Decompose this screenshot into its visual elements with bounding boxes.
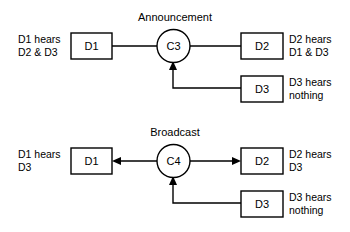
annotation-d2-broadcast-line1: D2 hears	[289, 148, 332, 160]
annotation-d3-broadcast-line2: nothing	[289, 204, 324, 216]
annotation-d1-announcement-line1: D1 hears	[18, 33, 61, 45]
diagram-canvas: Announcement D1 C3 D2 D3 D1 hears D2 & D…	[0, 0, 350, 232]
edge-d3-to-c4	[173, 183, 241, 203]
hub-label-c3: C3	[166, 40, 180, 52]
annotation-d1-broadcast-line2: D3	[18, 161, 32, 173]
node-label-d3-announcement: D3	[255, 83, 269, 95]
diagram-announcement: Announcement D1 C3 D2 D3 D1 hears D2 & D…	[18, 11, 332, 102]
annotation-d2-announcement-line2: D1 & D3	[289, 46, 329, 58]
edge-d3-to-c3	[173, 68, 241, 88]
node-label-d1-broadcast: D1	[84, 155, 98, 167]
node-label-d2-announcement: D2	[255, 40, 269, 52]
node-label-d1-announcement: D1	[84, 40, 98, 52]
annotation-d3-broadcast-line1: D3 hears	[289, 191, 332, 203]
annotation-d2-broadcast-line2: D3	[289, 161, 303, 173]
arrowhead-c4-to-d1	[112, 157, 121, 165]
arrowhead-c4-to-d2	[232, 157, 241, 165]
annotation-d3-announcement-line2: nothing	[289, 89, 324, 101]
diagram-title-announcement: Announcement	[138, 11, 212, 23]
diagram-broadcast: Broadcast D1 C4 D2 D3 D1 hears	[18, 126, 332, 217]
diagram-figure: Announcement D1 C3 D2 D3 D1 hears D2 & D…	[0, 0, 350, 232]
node-label-d3-broadcast: D3	[255, 198, 269, 210]
node-label-d2-broadcast: D2	[255, 155, 269, 167]
hub-label-c4: C4	[166, 155, 180, 167]
annotation-d1-announcement-line2: D2 & D3	[18, 46, 58, 58]
diagram-title-broadcast: Broadcast	[150, 126, 200, 138]
annotation-d1-broadcast-line1: D1 hears	[18, 148, 61, 160]
annotation-d3-announcement-line1: D3 hears	[289, 76, 332, 88]
annotation-d2-announcement-line1: D2 hears	[289, 33, 332, 45]
